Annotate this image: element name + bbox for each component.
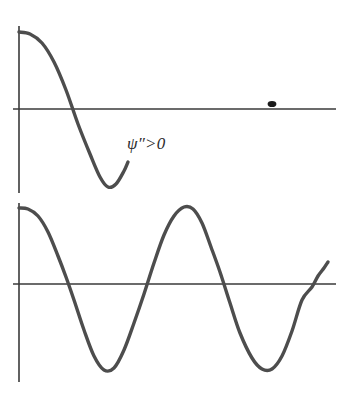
bottom-panel-group bbox=[13, 203, 336, 382]
curvature-annotation-label: ψ″>0 bbox=[127, 134, 165, 154]
top-panel-group bbox=[13, 26, 336, 193]
bottom-wavefunction-curve bbox=[19, 206, 328, 371]
figure-canvas bbox=[0, 0, 351, 394]
node-dot-icon bbox=[268, 101, 277, 107]
wavefunction-figure: ψ″>0 bbox=[0, 0, 351, 394]
